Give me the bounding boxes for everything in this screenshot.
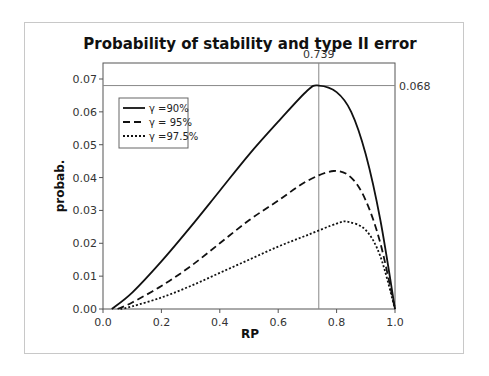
x-tick-label: 0.8 [328, 316, 346, 329]
y-tick-label: 0.03 [73, 204, 98, 217]
legend-label: γ =97.5% [149, 131, 198, 142]
y-tick-label: 0.06 [73, 106, 98, 119]
legend-label: γ =90% [149, 103, 189, 114]
y-tick-label: 0.00 [73, 303, 98, 316]
x-tick-label: 0.6 [269, 316, 287, 329]
y-tick-label: 0.04 [73, 172, 98, 185]
y-axis-label: probab. [53, 160, 67, 213]
x-tick-label: 1.0 [386, 316, 404, 329]
y-tick-label: 0.01 [73, 270, 98, 283]
y-tick-label: 0.07 [73, 73, 98, 86]
y-tick-label: 0.02 [73, 237, 98, 250]
x-tick-label: 0.4 [211, 316, 229, 329]
reference-label-y: 0.068 [399, 80, 431, 93]
x-tick-label: 0.0 [94, 316, 112, 329]
series-line-dotted [121, 221, 395, 309]
y-tick-label: 0.05 [73, 139, 98, 152]
x-tick-label: 0.2 [153, 316, 171, 329]
series-line-dashed [118, 171, 395, 309]
chart-title: Probability of stability and type II err… [83, 35, 417, 53]
line-chart: Probability of stability and type II err… [0, 0, 489, 376]
reference-label-x: 0.739 [303, 48, 335, 61]
x-axis-label: RP [241, 327, 259, 341]
legend-label: γ = 95% [149, 117, 192, 128]
